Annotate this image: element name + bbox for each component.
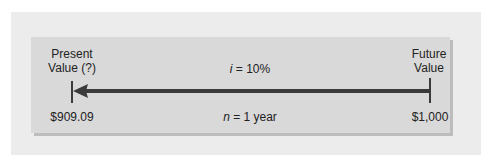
arrow-head-icon xyxy=(73,84,88,98)
timeline xyxy=(0,0,499,158)
